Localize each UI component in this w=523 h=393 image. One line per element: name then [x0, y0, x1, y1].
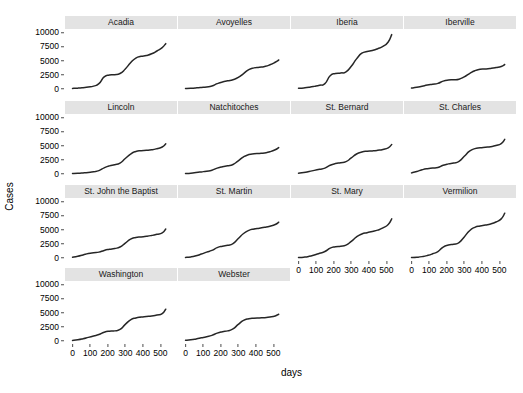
y-tick-mark [61, 173, 64, 174]
y-tick-label: 5000 [40, 141, 59, 150]
y-tick-label: 2500 [40, 239, 59, 248]
x-tick-mark [368, 261, 369, 264]
facet-strip-label: Iberia [291, 16, 403, 29]
x-tick-label: 0 [409, 266, 414, 275]
y-tick-mark [61, 229, 64, 230]
x-tick-label: 400 [249, 349, 263, 358]
chart-root: Cases days AcadiaAvoyellesIberiaIbervill… [0, 0, 523, 393]
y-tick-label: 5000 [40, 308, 59, 317]
x-tick-label: 100 [196, 349, 210, 358]
x-tick-mark [90, 344, 91, 347]
facet-plot-area [65, 198, 177, 260]
facet-strip-label: Washington [65, 268, 177, 281]
facet-plot-area [404, 198, 516, 260]
facet-plot-area [65, 281, 177, 343]
x-tick-label: 300 [118, 349, 132, 358]
x-tick-label: 500 [492, 266, 506, 275]
y-tick-label: 0 [54, 84, 59, 93]
x-tick-label: 500 [266, 349, 280, 358]
facet-strip-label: Vermilion [404, 185, 516, 198]
y-tick-label: 2500 [40, 155, 59, 164]
x-axis-ticks: 0100200300400500 [404, 260, 516, 276]
x-tick-mark [142, 344, 143, 347]
y-tick-label: 5000 [40, 225, 59, 234]
x-tick-label: 0 [183, 349, 188, 358]
facet-strip-label: Iberville [404, 16, 516, 29]
y-tick-label: 5000 [40, 56, 59, 65]
y-axis-ticks: 025005000750010000 [19, 198, 59, 260]
y-tick-mark [61, 284, 64, 285]
y-tick-mark [61, 60, 64, 61]
x-tick-mark [411, 261, 412, 264]
facet-panel: Natchitoches [178, 101, 290, 176]
x-tick-mark [203, 344, 204, 347]
facet-plot-area [291, 114, 403, 176]
facet-strip-label: St. Bernard [291, 101, 403, 114]
y-tick-label: 7500 [40, 211, 59, 220]
y-tick-mark [61, 298, 64, 299]
facet-plot-area [178, 29, 290, 91]
y-tick-mark [61, 74, 64, 75]
y-tick-label: 10000 [35, 197, 59, 206]
facet-strip-label: St. Charles [404, 101, 516, 114]
facet-panel: Acadia [65, 16, 177, 91]
y-tick-mark [61, 243, 64, 244]
y-tick-label: 0 [54, 169, 59, 178]
facet-plot-area [404, 114, 516, 176]
x-tick-label: 300 [231, 349, 245, 358]
y-tick-label: 10000 [35, 280, 59, 289]
x-tick-mark [185, 344, 186, 347]
y-axis-ticks: 025005000750010000 [19, 29, 59, 91]
x-tick-label: 400 [136, 349, 150, 358]
y-tick-mark [61, 46, 64, 47]
facet-panel: Avoyelles [178, 16, 290, 91]
y-axis-title-text: Cases [4, 182, 15, 210]
x-tick-mark [351, 261, 352, 264]
x-tick-label: 200 [101, 349, 115, 358]
facet-panel: St. Bernard [291, 101, 403, 176]
y-tick-label: 10000 [35, 28, 59, 37]
facet-strip-label: Avoyelles [178, 16, 290, 29]
x-tick-mark [160, 344, 161, 347]
y-tick-mark [61, 326, 64, 327]
y-tick-mark [61, 201, 64, 202]
x-tick-mark [298, 261, 299, 264]
x-tick-mark [481, 261, 482, 264]
x-tick-mark [273, 344, 274, 347]
x-axis-ticks: 0100200300400500 [291, 260, 403, 276]
x-tick-mark [499, 261, 500, 264]
facet-panel: St. Martin [178, 185, 290, 260]
y-tick-mark [61, 340, 64, 341]
y-tick-mark [61, 117, 64, 118]
x-tick-label: 500 [379, 266, 393, 275]
x-tick-label: 400 [475, 266, 489, 275]
x-axis-title: days [0, 367, 523, 378]
facet-plot-area [65, 114, 177, 176]
x-tick-label: 100 [83, 349, 97, 358]
facet-plot-area [404, 29, 516, 91]
facet-plot-area [178, 281, 290, 343]
x-tick-label: 100 [309, 266, 323, 275]
x-tick-label: 200 [440, 266, 454, 275]
x-tick-label: 0 [70, 349, 75, 358]
x-tick-label: 300 [457, 266, 471, 275]
x-tick-mark [316, 261, 317, 264]
facet-plot-area [291, 198, 403, 260]
facet-strip-label: St. Mary [291, 185, 403, 198]
facet-strip-label: Natchitoches [178, 101, 290, 114]
x-axis-title-text: days [281, 367, 302, 378]
y-tick-label: 7500 [40, 42, 59, 51]
x-tick-label: 200 [327, 266, 341, 275]
x-tick-mark [464, 261, 465, 264]
x-tick-label: 100 [422, 266, 436, 275]
facet-panel: St. Mary [291, 185, 403, 260]
x-axis-ticks: 0100200300400500 [178, 343, 290, 359]
y-tick-mark [61, 88, 64, 89]
x-tick-mark [429, 261, 430, 264]
x-tick-mark [255, 344, 256, 347]
x-tick-label: 200 [214, 349, 228, 358]
facet-strip-label: St. John the Baptist [65, 185, 177, 198]
x-tick-label: 500 [153, 349, 167, 358]
facet-strip-label: Webster [178, 268, 290, 281]
y-tick-label: 7500 [40, 127, 59, 136]
